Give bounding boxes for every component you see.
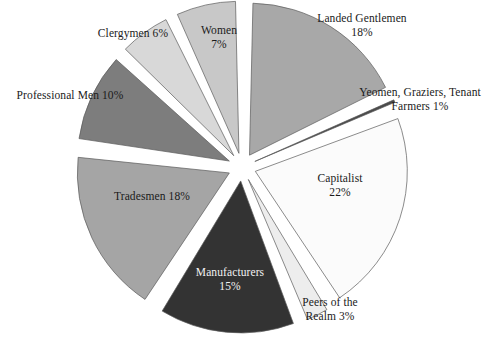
pie-slice-capitalist — [255, 119, 407, 298]
pie-slices-group — [77, 1, 407, 333]
pie-chart-canvas — [0, 0, 489, 343]
pie-chart-figure: Landed Gentlemen 18% Yeomen, Graziers, T… — [0, 0, 489, 343]
